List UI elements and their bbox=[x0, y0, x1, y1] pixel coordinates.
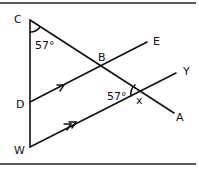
angle-label-C: 57° bbox=[35, 39, 55, 52]
label-D: D bbox=[16, 98, 24, 111]
label-W: W bbox=[14, 144, 25, 157]
angle-arc-C bbox=[30, 27, 40, 32]
label-E: E bbox=[153, 35, 160, 48]
angle-label-x: x bbox=[136, 94, 143, 107]
label-B: B bbox=[98, 51, 106, 64]
line-WY bbox=[30, 73, 176, 147]
label-A: A bbox=[176, 111, 184, 124]
geometry-diagram: C B E D Y A W 57° 57° x bbox=[0, 0, 199, 170]
line-CA bbox=[30, 20, 174, 113]
label-Y: Y bbox=[182, 65, 190, 78]
angle-label-intersection: 57° bbox=[107, 90, 127, 103]
label-C: C bbox=[14, 13, 22, 26]
